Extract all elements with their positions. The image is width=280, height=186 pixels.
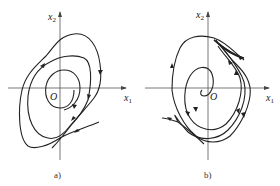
origin-label: O	[50, 91, 57, 102]
x2-axis-label: x2	[195, 9, 204, 22]
x1-axis-label: x1	[123, 92, 132, 105]
direction-arrow	[170, 63, 174, 68]
direction-arrow	[40, 63, 45, 68]
x1-axis-label: x1	[265, 92, 274, 105]
x2-axis-label: x2	[47, 11, 56, 24]
direction-arrow	[241, 112, 246, 118]
origin-label: O	[210, 91, 217, 102]
direction-arrow	[87, 94, 91, 100]
direction-arrow	[193, 107, 198, 112]
trajectory-escape-bottom	[162, 118, 204, 144]
panel-caption: a)	[54, 170, 61, 180]
direction-arrow	[185, 111, 190, 116]
panel-b: x2 x1 O b)	[145, 9, 274, 180]
trajectory-inner	[46, 70, 80, 110]
phase-portrait-figure: x2 x1 O a) x2 x1 O	[0, 0, 280, 186]
trajectory-middle	[28, 56, 91, 138]
panel-caption: b)	[204, 170, 212, 180]
panel-a: x2 x1 O a)	[8, 11, 132, 180]
direction-arrow	[72, 104, 77, 109]
